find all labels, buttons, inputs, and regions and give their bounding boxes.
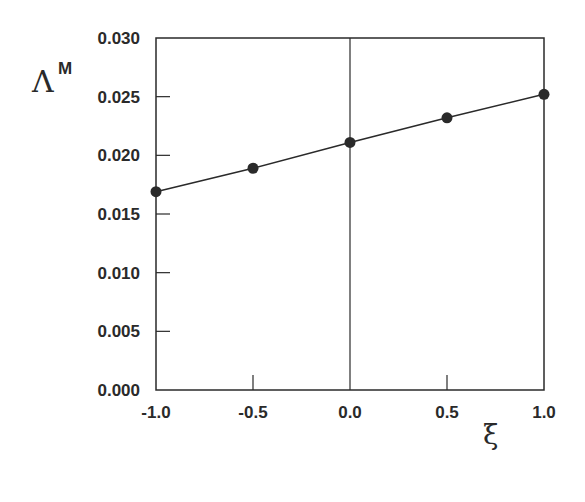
data-point-marker xyxy=(151,186,162,197)
x-tick-label: -0.5 xyxy=(238,403,267,422)
y-tick-label: 0.030 xyxy=(97,29,140,48)
x-axis: -1.0-0.50.00.51.0 xyxy=(141,375,555,422)
y-tick-label: 0.000 xyxy=(97,381,140,400)
data-point-marker xyxy=(539,89,550,100)
y-tick-label: 0.005 xyxy=(97,322,140,341)
y-tick-label: 0.025 xyxy=(97,88,140,107)
x-tick-label: 0.0 xyxy=(338,403,362,422)
y-axis-label: Λ xyxy=(31,64,54,99)
x-axis-label: ξ xyxy=(483,418,498,451)
y-axis-label-superscript: M xyxy=(58,59,72,78)
data-point-marker xyxy=(248,163,259,174)
y-tick-label: 0.010 xyxy=(97,264,140,283)
y-axis: 0.0000.0050.0100.0150.0200.0250.030 xyxy=(97,29,170,400)
data-point-marker xyxy=(442,112,453,123)
x-tick-label: 0.5 xyxy=(435,403,459,422)
y-tick-label: 0.020 xyxy=(97,146,140,165)
line-chart: 0.0000.0050.0100.0150.0200.0250.030 -1.0… xyxy=(0,0,585,502)
x-tick-label: 1.0 xyxy=(532,403,556,422)
y-tick-label: 0.015 xyxy=(97,205,140,224)
data-point-marker xyxy=(345,137,356,148)
x-tick-label: -1.0 xyxy=(141,403,170,422)
plot-area xyxy=(156,38,544,390)
